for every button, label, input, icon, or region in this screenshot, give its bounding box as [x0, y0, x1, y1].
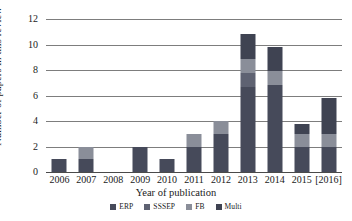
legend-label: SSSEP — [153, 203, 175, 211]
bar-segment-fb — [213, 121, 228, 134]
legend-label: Multi — [225, 203, 242, 211]
bar-segment-fb — [267, 71, 282, 85]
bar-stack — [321, 98, 336, 172]
bar-slot — [73, 19, 100, 172]
y-tick-label: 12 — [0, 14, 38, 24]
bar-slot — [154, 19, 181, 172]
legend-item: SSSEP — [144, 203, 175, 211]
bar-slot — [127, 19, 154, 172]
y-tick-label: 0 — [0, 167, 38, 177]
bar-stack — [133, 147, 148, 173]
x-axis-ticks: 2006200720082009201020112012201320142015… — [46, 174, 342, 187]
bar-slot — [207, 19, 234, 172]
bar-stack — [186, 134, 201, 172]
bar-segment-erp — [294, 147, 309, 173]
gridline-0 — [46, 172, 342, 173]
legend-item: Multi — [216, 203, 242, 211]
y-tick-label: 8 — [0, 65, 38, 75]
legend-item: ERP — [110, 203, 133, 211]
bar-slot — [100, 19, 127, 172]
x-tick-label: 2015 — [288, 174, 315, 186]
legend-item: FB — [186, 203, 204, 211]
bar-slot — [234, 19, 261, 172]
bar-segment-erp — [133, 147, 148, 173]
y-tick-label: 2 — [0, 142, 38, 152]
stacked-bar-chart: Number of papers in this review 02468101… — [0, 0, 352, 221]
bar-segment-multi — [321, 98, 336, 134]
bar-segment-erp — [240, 87, 255, 172]
y-tick-label: 4 — [0, 116, 38, 126]
bar-stack — [240, 34, 255, 172]
bar-segment-erp — [321, 147, 336, 173]
x-tick-label: 2006 — [46, 174, 73, 186]
legend-swatch-icon — [110, 204, 116, 210]
bar-segment-fb — [294, 134, 309, 147]
y-tick-label: 6 — [0, 91, 38, 101]
bar-stack — [267, 47, 282, 172]
chart-legend: ERPSSSEPFBMulti — [0, 203, 352, 211]
bar-segment-multi — [294, 124, 309, 134]
legend-swatch-icon — [144, 204, 150, 210]
bar-slot — [315, 19, 342, 172]
legend-swatch-icon — [186, 204, 192, 210]
bar-segment-erp — [267, 85, 282, 172]
x-tick-label: 2011 — [181, 174, 208, 186]
bar-segment-fb — [321, 134, 336, 147]
bar-stack — [213, 121, 228, 172]
x-tick-label: 2009 — [127, 174, 154, 186]
bar-segment-fb — [186, 134, 201, 147]
x-axis-title: Year of publication — [0, 187, 352, 198]
plot-area — [46, 19, 342, 172]
bar-slot — [46, 19, 73, 172]
y-tick-label: 10 — [0, 40, 38, 50]
bar-stack — [160, 159, 175, 172]
bars-container — [46, 19, 342, 172]
x-tick-label: 2014 — [261, 174, 288, 186]
bar-segment-erp — [79, 159, 94, 172]
bar-segment-fb — [240, 59, 255, 73]
bar-stack — [79, 147, 94, 173]
bar-segment-erp — [213, 134, 228, 172]
x-tick-label: 2007 — [73, 174, 100, 186]
bar-segment-multi — [240, 34, 255, 58]
x-tick-label: 2013 — [234, 174, 261, 186]
x-tick-label: [2016] — [315, 174, 342, 186]
bar-segment-sssep — [240, 73, 255, 87]
x-tick-label: 2010 — [154, 174, 181, 186]
x-tick-label: 2012 — [207, 174, 234, 186]
bar-segment-fb — [79, 147, 94, 160]
legend-label: FB — [195, 203, 204, 211]
bar-stack — [52, 159, 67, 172]
legend-swatch-icon — [216, 204, 222, 210]
bar-slot — [181, 19, 208, 172]
x-tick-label: 2008 — [100, 174, 127, 186]
bar-slot — [261, 19, 288, 172]
bar-segment-erp — [186, 147, 201, 173]
bar-stack — [294, 124, 309, 172]
bar-segment-erp — [52, 159, 67, 172]
bar-segment-erp — [160, 159, 175, 172]
legend-label: ERP — [119, 203, 133, 211]
bar-segment-multi — [267, 47, 282, 71]
bar-slot — [288, 19, 315, 172]
